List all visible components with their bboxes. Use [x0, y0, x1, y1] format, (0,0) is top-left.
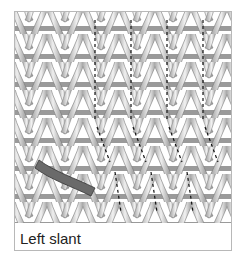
figure-caption: Left slant: [20, 230, 81, 247]
knit-illustration: [15, 12, 231, 223]
figure-frame: Left slant: [14, 11, 232, 251]
stitch-pattern: [15, 12, 231, 223]
knit-stitches-svg: [15, 12, 231, 223]
